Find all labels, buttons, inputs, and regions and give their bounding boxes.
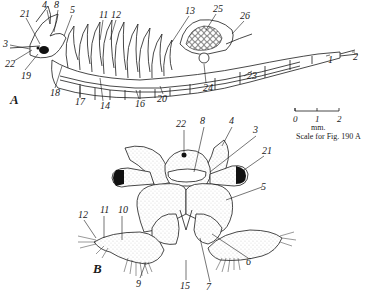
- label-a-11: 11: [99, 9, 108, 20]
- panel-a-drawing: [10, 6, 358, 100]
- scale-unit: mm.: [311, 123, 325, 132]
- leg-left: [94, 232, 164, 264]
- label-b-3: 3: [252, 124, 258, 135]
- scale-line: [295, 108, 339, 111]
- median-eye: [37, 47, 40, 50]
- label-a-25: 25: [213, 3, 223, 14]
- label-a-4: 4: [42, 0, 47, 10]
- label-a-24: 24: [203, 82, 213, 93]
- label-a-22: 22: [5, 58, 15, 69]
- label-a-19: 19: [21, 70, 31, 81]
- label-a-8: 8: [54, 0, 59, 10]
- label-a-20: 20: [157, 93, 167, 104]
- label-a-13: 13: [185, 5, 195, 16]
- phyllopods: [66, 20, 172, 78]
- label-b-6: 6: [246, 256, 251, 267]
- gonopore-bulb: [199, 53, 209, 63]
- scale-tick-0: 0: [293, 114, 298, 124]
- label-b-8: 8: [200, 115, 205, 126]
- figure-canvas: 3 4 5 8 11 12 13 14 16 17 18 19 20 21 22…: [0, 0, 371, 292]
- label-a-1: 1: [328, 54, 333, 65]
- label-b-15: 15: [180, 280, 190, 291]
- scale-tick-2: 2: [337, 114, 342, 124]
- scale-bar: 0 1 2 mm. Scale for Fig. 190 A: [293, 108, 361, 141]
- panel-b-drawing: [78, 140, 296, 276]
- panel-a-label: A: [9, 92, 19, 107]
- label-b-21: 21: [262, 145, 272, 156]
- label-b-7: 7: [206, 281, 212, 292]
- label-a-16: 16: [135, 98, 145, 109]
- label-b-11: 11: [100, 204, 109, 215]
- label-a-18: 18: [50, 87, 60, 98]
- compound-eye: [39, 46, 49, 54]
- scale-caption: Scale for Fig. 190 A: [296, 132, 361, 141]
- label-a-23: 23: [247, 70, 257, 81]
- label-a-5: 5: [70, 4, 75, 15]
- labrum-outline: [168, 169, 206, 182]
- label-a-3: 3: [2, 38, 8, 49]
- label-b-10: 10: [118, 204, 128, 215]
- label-a-17: 17: [75, 96, 86, 107]
- median-eye: [182, 153, 187, 158]
- label-b-12: 12: [78, 209, 88, 220]
- label-a-2: 2: [353, 51, 358, 62]
- label-a-14: 14: [100, 100, 110, 111]
- compound-eye-left: [113, 170, 124, 186]
- label-a-21: 21: [20, 8, 30, 19]
- label-b-5: 5: [261, 181, 266, 192]
- label-a-12: 12: [111, 9, 121, 20]
- label-b-22: 22: [176, 118, 186, 129]
- panel-b-label: B: [92, 261, 102, 276]
- label-a-26: 26: [240, 10, 250, 21]
- label-b-9: 9: [136, 278, 141, 289]
- label-b-4: 4: [229, 115, 234, 126]
